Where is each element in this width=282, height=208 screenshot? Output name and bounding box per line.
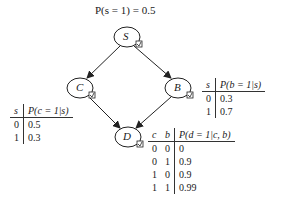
cell: 0 [161,142,175,156]
cpt-b-header-s: s [202,78,216,92]
cell: 1 [148,168,161,181]
cell: 1 [161,155,175,168]
cpt-b: s P(b = 1|s) 0 0.3 1 0.7 [202,78,265,118]
cpt-b-header-p: P(b = 1|s) [216,78,266,92]
node-s-label: S [123,30,129,42]
cell: 1 [148,181,161,194]
cell: 0.3 [216,92,266,106]
cpt-d: c b P(d = 1|c, b) 0 0 0 0 1 0.9 1 0 0.9 … [148,128,235,194]
cell: 0.9 [175,168,235,181]
cell: 0 [202,92,216,106]
cpt-d-header-p: P(d = 1|c, b) [175,128,235,142]
cell: 0.7 [216,105,266,118]
cell: 0.9 [175,155,235,168]
node-b-label: B [174,81,181,93]
cell: 0 [148,142,161,156]
cell: 0 [175,142,235,156]
cpt-c-header-p: P(c = 1|s) [24,104,73,118]
edge-s-b [134,46,171,78]
cell: 1 [10,131,24,144]
edge-b-d [136,97,171,128]
edge-c-d [89,97,120,128]
cell: 0.5 [24,118,73,132]
cell: 0.3 [24,131,73,144]
cell: 0 [10,118,24,132]
node-c-label: C [76,81,83,93]
cell: 0 [148,155,161,168]
cell: 0.99 [175,181,235,194]
cell: 1 [161,181,175,194]
cell: 0 [161,168,175,181]
cpt-c-header-s: s [10,104,24,118]
edge-s-c [87,46,120,78]
node-d-label: D [123,130,131,142]
cpt-c: s P(c = 1|s) 0 0.5 1 0.3 [10,104,73,144]
cpt-d-header-b: b [161,128,175,142]
prior-label: P(s = 1) = 0.5 [95,4,155,16]
cpt-d-header-c: c [148,128,161,142]
cell: 1 [202,105,216,118]
